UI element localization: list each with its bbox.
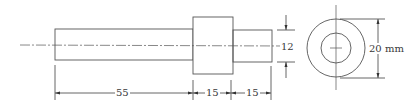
dim-label-12: 12: [280, 41, 295, 52]
left-shaft-outline: [55, 29, 193, 60]
dim-label-20mm: 20 mm: [368, 43, 405, 54]
dim-label-15-collar: 15: [205, 87, 220, 98]
front-centerline: [20, 45, 285, 46]
dim-label-55: 55: [115, 87, 130, 98]
dim-label-15-right: 15: [245, 87, 260, 98]
